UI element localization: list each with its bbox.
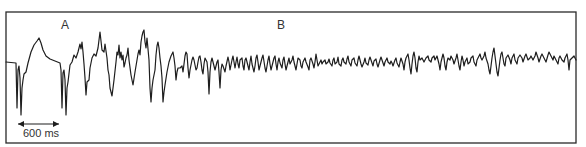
waveform-figure bbox=[0, 0, 586, 147]
segment-label-a: A bbox=[61, 19, 69, 31]
segment-label-b: B bbox=[277, 19, 285, 31]
time-scale-label: 600 ms bbox=[23, 128, 59, 139]
waveform-trace bbox=[6, 30, 576, 115]
plot-frame bbox=[6, 12, 576, 143]
